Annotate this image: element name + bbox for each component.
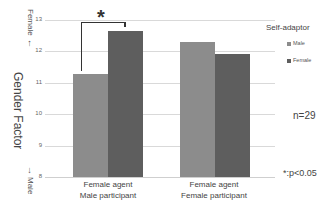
x-label-c2-line1: Female agent xyxy=(169,180,259,190)
y-top-label: Female xyxy=(26,9,35,36)
bar-male-c1 xyxy=(73,74,108,177)
gridline-13 xyxy=(45,20,275,21)
y-bottom-arrow: → xyxy=(26,166,36,175)
legend-male-label: Male xyxy=(293,40,305,46)
sample-size-note: n=29 xyxy=(293,110,316,121)
y-axis-title: Gender Factor xyxy=(11,72,25,149)
significance-star: * xyxy=(97,6,105,29)
significance-bracket-right xyxy=(124,22,126,27)
y-tick-11: 11 xyxy=(28,79,42,85)
gridline-8 xyxy=(45,177,275,178)
x-label-c1-line1: Female agent xyxy=(63,180,153,190)
gridline-12 xyxy=(45,51,275,52)
bar-male-c2 xyxy=(180,42,215,177)
significance-note: *:p<0.05 xyxy=(283,168,317,178)
y-top-arrow: ← xyxy=(26,39,36,48)
bar-female-c2 xyxy=(215,54,250,177)
legend-female-label: Female xyxy=(293,57,311,63)
y-tick-10: 10 xyxy=(28,110,42,116)
legend-female-swatch xyxy=(287,59,291,63)
x-label-c2-line2: Female participant xyxy=(169,191,259,201)
legend-male-swatch xyxy=(287,42,291,46)
x-label-c1-line2: Male participant xyxy=(63,191,153,201)
y-tick-9: 9 xyxy=(28,142,42,148)
legend-title: Self-adaptor xyxy=(266,23,310,32)
significance-bracket xyxy=(81,22,126,71)
y-bottom-label: Male xyxy=(26,177,35,194)
